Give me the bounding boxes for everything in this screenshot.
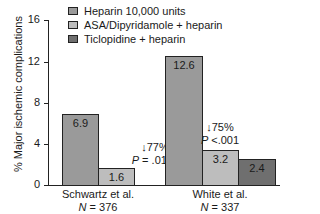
legend-swatch	[68, 21, 78, 29]
category-schwartz: Schwartz et al. N = 376	[48, 188, 148, 214]
category-n: N = 337	[170, 201, 270, 214]
y-tick-16: 16	[22, 13, 40, 25]
legend-asa: ASA/Dipyridamole + heparin	[68, 19, 223, 31]
legend-swatch	[68, 7, 78, 15]
y-tick-12: 12	[22, 55, 40, 67]
y-tick-8: 8	[22, 96, 40, 108]
bar-white-ticlopidine: 2.4	[238, 159, 276, 186]
bar-white-asa: 3.2	[202, 150, 239, 186]
y-axis	[48, 20, 49, 186]
bar-schwartz-asa: 1.6	[98, 168, 135, 186]
x-axis	[48, 185, 280, 186]
legend-label: Heparin 10,000 units	[84, 5, 186, 17]
bar-schwartz-heparin: 6.9	[62, 114, 99, 186]
reduction-label: ↓75%	[185, 121, 255, 134]
annotation-white: ↓75% P <.001	[185, 121, 255, 147]
category-white: White et al. N = 337	[170, 188, 270, 214]
legend-label: ASA/Dipyridamole + heparin	[84, 19, 223, 31]
y-tick-4: 4	[22, 137, 40, 149]
p-value: P <.001	[185, 134, 255, 147]
legend-heparin: Heparin 10,000 units	[68, 5, 186, 17]
legend-ticlopidine: Ticlopidine + heparin	[68, 33, 185, 45]
y-tick-0: 0	[22, 178, 40, 190]
category-label: White et al.	[170, 188, 270, 201]
legend-label: Ticlopidine + heparin	[84, 33, 185, 45]
legend-swatch	[68, 35, 78, 43]
category-label: Schwartz et al.	[48, 188, 148, 201]
category-n: N = 376	[48, 201, 148, 214]
